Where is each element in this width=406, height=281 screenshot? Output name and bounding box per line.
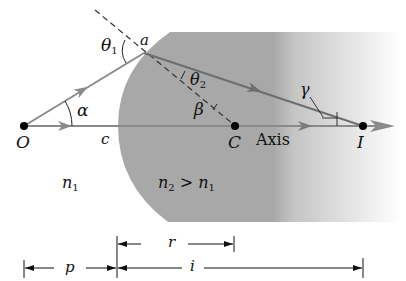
- label-axis: Axis: [256, 132, 290, 148]
- object-point: [20, 122, 28, 130]
- incident-ray-arrow: [73, 82, 90, 98]
- label-gamma: γ: [300, 82, 310, 98]
- label-a: a: [140, 33, 149, 48]
- label-i: i: [190, 259, 195, 274]
- label-c: c: [101, 132, 109, 147]
- label-n1: n1: [62, 175, 79, 193]
- label-beta: β: [194, 101, 204, 118]
- label-theta2: θ2: [190, 72, 206, 90]
- label-C: C: [228, 134, 241, 151]
- center-point: [231, 122, 239, 130]
- label-n2-gt-n1: n2 > n1: [158, 175, 215, 193]
- label-alpha: α: [77, 102, 88, 119]
- label-theta1: θ1: [101, 37, 118, 56]
- label-p: p: [65, 260, 75, 275]
- label-r: r: [168, 235, 175, 250]
- theta1-arc: [122, 40, 126, 63]
- image-point: [359, 122, 367, 130]
- label-I: I: [357, 134, 364, 151]
- alpha-arc: [65, 101, 72, 126]
- label-O: O: [16, 134, 30, 151]
- refraction-diagram: [0, 0, 406, 281]
